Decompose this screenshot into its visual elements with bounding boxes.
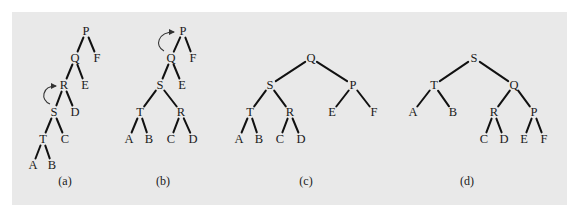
node-a: A [28,158,37,172]
node-s: S [471,51,478,65]
node-s: S [157,78,164,92]
node-c: C [61,132,69,146]
node-p: P [350,78,357,92]
caption-b: (b) [156,174,170,188]
node-c: C [480,132,488,146]
node-r: R [286,105,295,119]
node-f: F [190,51,197,65]
node-b: B [48,158,56,172]
node-d: D [70,105,79,119]
node-e: E [81,78,89,92]
tree-rotation-figure: PQFRESDTCAB(a)PQFSETRABCD(b)QSPTREFABCD(… [0,0,577,216]
node-a: A [408,105,417,119]
node-b: B [145,132,153,146]
node-f: F [541,132,548,146]
node-e: E [520,132,528,146]
caption-c: (c) [299,174,312,188]
node-a: A [234,132,243,146]
node-s: S [51,105,58,119]
node-c: C [276,132,284,146]
node-r: R [490,105,499,119]
node-p: P [83,24,90,38]
node-t: T [430,78,438,92]
caption-d: (d) [460,174,474,188]
node-r: R [60,78,69,92]
node-e: E [178,78,186,92]
node-t: T [136,105,144,119]
node-s: S [267,78,274,92]
node-r: R [177,105,186,119]
node-q: Q [70,51,79,65]
node-c: C [167,132,175,146]
node-f: F [94,51,101,65]
node-p: P [180,24,187,38]
node-d: D [499,132,508,146]
node-a: A [124,132,133,146]
caption-a: (a) [58,174,71,188]
node-d: D [188,132,197,146]
node-b: B [449,105,457,119]
node-t: T [246,105,254,119]
node-b: B [255,132,263,146]
node-e: E [328,105,336,119]
node-q: Q [166,51,175,65]
node-d: D [296,132,305,146]
node-t: T [39,132,47,146]
node-f: F [371,105,378,119]
node-p: P [531,105,538,119]
node-q: Q [509,78,518,92]
node-q: Q [306,51,315,65]
